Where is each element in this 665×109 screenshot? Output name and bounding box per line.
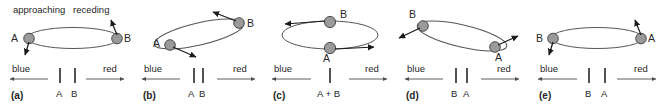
red-label: red xyxy=(634,63,648,74)
spectral-tick-0: B xyxy=(585,88,591,99)
velocity-arrow-a xyxy=(498,36,518,45)
blue-label: blue xyxy=(407,63,425,74)
star-b xyxy=(234,18,245,29)
blue-label: blue xyxy=(274,63,292,74)
blue-label: blue xyxy=(540,63,558,74)
star-b-label: B xyxy=(124,32,131,44)
red-label: red xyxy=(233,63,247,74)
panel-label-b: (b) xyxy=(143,90,156,101)
spectral-tick-1: B xyxy=(71,88,77,99)
star-b-label: B xyxy=(536,32,543,44)
velocity-arrow-a xyxy=(173,47,196,57)
panel-b: blue red B A A B (b) xyxy=(133,0,264,109)
red-label: red xyxy=(497,63,511,74)
velocity-arrow-a xyxy=(25,42,29,55)
panel-e: blue red B A B A (e) xyxy=(527,0,665,109)
blue-label: blue xyxy=(12,63,30,74)
star-b xyxy=(418,21,429,32)
star-b xyxy=(324,16,335,27)
panel-label-a: (a) xyxy=(11,90,23,101)
star-a-label: A xyxy=(495,51,502,63)
receding-note: receding xyxy=(73,4,109,15)
star-a-label: A xyxy=(323,52,330,64)
panel-a: approaching receding A B blue red A B (a… xyxy=(0,0,133,109)
spectral-tick-0: A xyxy=(56,88,63,99)
spectral-tick-1: A xyxy=(601,88,608,99)
star-a xyxy=(165,40,176,51)
spectral-tick-1: B xyxy=(199,88,205,99)
panel-d: blue red B A B A (d) xyxy=(396,0,527,109)
orbit-ellipse xyxy=(27,28,119,49)
star-a-label: A xyxy=(153,37,160,49)
star-a-label: A xyxy=(11,32,18,44)
doppler-binary-figure: approaching receding A B blue red A B (a… xyxy=(0,0,665,109)
star-a-label: A xyxy=(648,32,655,44)
spectral-tick-0: B xyxy=(451,88,457,99)
star-b-label: B xyxy=(340,8,347,20)
star-b-label: B xyxy=(247,17,254,29)
spectral-tick-0: A xyxy=(188,88,195,99)
velocity-arrow-b xyxy=(285,21,325,24)
panel-c: blue red B A A + B (c) xyxy=(264,0,396,109)
panel-label-e: (e) xyxy=(539,90,551,101)
approaching-note: approaching xyxy=(13,4,65,15)
velocity-arrow-b xyxy=(399,28,420,38)
red-label: red xyxy=(103,63,117,74)
velocity-arrow-b xyxy=(549,42,553,55)
panel-label-c: (c) xyxy=(273,90,285,101)
blue-label: blue xyxy=(144,63,162,74)
orbit-ellipse xyxy=(551,28,643,49)
red-label: red xyxy=(365,63,379,74)
star-b-label: B xyxy=(409,8,416,20)
spectral-tick-0: A + B xyxy=(317,88,340,99)
spectral-tick-1: A xyxy=(463,88,470,99)
panel-label-d: (d) xyxy=(406,90,419,101)
